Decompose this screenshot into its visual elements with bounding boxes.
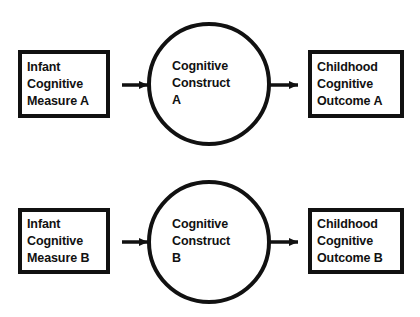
node-label: Cognitive Construct B: [151, 216, 230, 269]
node-cognitive-construct-a: Cognitive Construct A: [147, 22, 271, 146]
node-infant-cognitive-measure-a: Infant Cognitive Measure A: [18, 50, 110, 118]
node-label: Infant Cognitive Measure B: [22, 216, 89, 267]
node-cognitive-construct-b: Cognitive Construct B: [147, 180, 271, 304]
node-label: Infant Cognitive Measure A: [22, 59, 89, 110]
node-childhood-cognitive-outcome-b: Childhood Cognitive Outcome B: [308, 208, 404, 274]
node-label: Childhood Cognitive Outcome A: [312, 59, 382, 110]
node-infant-cognitive-measure-b: Infant Cognitive Measure B: [18, 208, 110, 274]
node-label: Childhood Cognitive Outcome B: [312, 216, 383, 267]
node-childhood-cognitive-outcome-a: Childhood Cognitive Outcome A: [308, 50, 404, 118]
diagram-canvas: Infant Cognitive Measure A Cognitive Con…: [0, 0, 420, 317]
node-label: Cognitive Construct A: [151, 58, 230, 111]
